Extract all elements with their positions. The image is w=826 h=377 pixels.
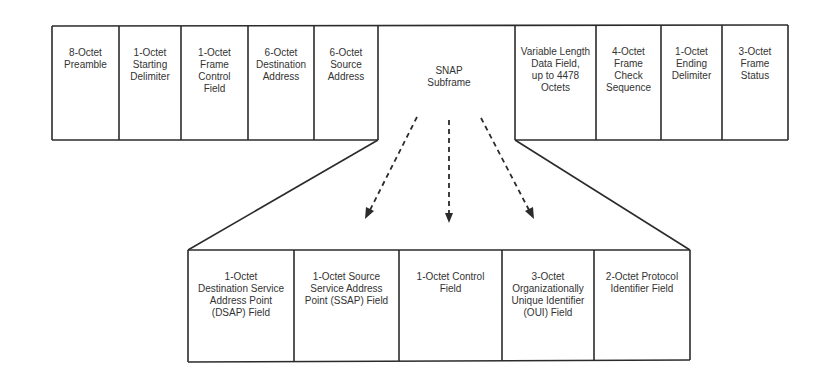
- field-ending-delimiter: 1-Octet Ending Delimiter: [661, 25, 722, 140]
- arrow-right-head-icon: [525, 207, 534, 219]
- field-label: 3-Octet Frame Status: [739, 46, 772, 140]
- field-label: 1-Octet Source Service Address Point (SS…: [305, 271, 388, 362]
- snap-field-dsap: 1-Octet Destination Service Address Poin…: [188, 250, 294, 362]
- arrow-left-head-icon: [365, 207, 374, 219]
- field-label: 1-Octet Frame Control Field: [198, 47, 231, 140]
- snap-field-protocol-identifier: 2-Octet Protocol Identifier Field: [594, 250, 690, 360]
- field-data: Variable Length Data Field, up to 4478 O…: [515, 25, 596, 140]
- field-destination-address: 6-Octet Destination Address: [248, 26, 314, 140]
- snap-field-oui: 3-Octet Organizationally Unique Identifi…: [502, 250, 594, 361]
- field-label: 6-Octet Source Address: [328, 47, 365, 140]
- field-label: 8-Octet Preamble: [64, 47, 107, 140]
- expansion-line-left: [188, 140, 378, 250]
- field-frame-status: 3-Octet Frame Status: [722, 25, 788, 140]
- field-label: 4-Octet Frame Check Sequence: [606, 46, 651, 140]
- field-label: 6-Octet Destination Address: [256, 47, 306, 140]
- field-frame-control: 1-Octet Frame Control Field: [181, 26, 248, 140]
- field-frame-check-sequence: 4-Octet Frame Check Sequence: [596, 25, 661, 140]
- field-starting-delimiter: 1-Octet Starting Delimiter: [119, 26, 181, 140]
- field-label: 2-Octet Protocol Identifier Field: [606, 271, 678, 360]
- field-source-address: 6-Octet Source Address: [314, 26, 378, 140]
- snap-field-ssap: 1-Octet Source Service Address Point (SS…: [294, 250, 399, 362]
- field-label: 1-Octet Ending Delimiter: [672, 46, 711, 140]
- expansion-line-right: [515, 140, 690, 250]
- field-label: 1-Octet Control Field: [417, 271, 485, 361]
- snap-frame-diagram: 8-Octet Preamble 1-Octet Starting Delimi…: [0, 0, 826, 377]
- field-label: Variable Length Data Field, up to 4478 O…: [521, 46, 590, 140]
- field-label: 3-Octet Organizationally Unique Identifi…: [512, 271, 585, 361]
- field-label: 1-Octet Destination Service Address Poin…: [198, 271, 284, 362]
- arrow-middle-head-icon: [445, 213, 453, 223]
- snap-field-control: 1-Octet Control Field: [399, 250, 502, 361]
- snap-subframe-label: SNAP Subframe: [404, 65, 494, 89]
- field-label: 1-Octet Starting Delimiter: [130, 47, 169, 140]
- field-preamble: 8-Octet Preamble: [52, 26, 119, 140]
